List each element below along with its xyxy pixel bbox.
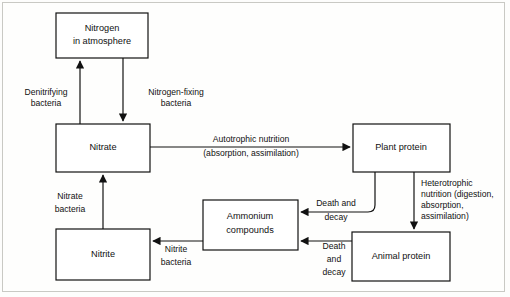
- diagram-page: Nitrogen in atmosphere Nitrate Nitrite A…: [0, 0, 510, 297]
- edge-label-denitrifying-line1: Denitrifying: [25, 87, 68, 97]
- node-ammonium-compounds[interactable]: Ammonium compounds: [203, 200, 298, 250]
- edge-label-autotrophic-line1: Autotrophic nutrition: [213, 134, 290, 144]
- node-label-nitrogen-atmosphere-line2: in atmosphere: [73, 36, 131, 46]
- node-label-nitrogen-atmosphere-line1: Nitrogen: [85, 23, 120, 33]
- edge-label-plant-death-decay-line2: decay: [325, 212, 349, 222]
- edge-label-nitrite-bacteria: Nitrite bacteria: [161, 244, 192, 267]
- edge-label-nitrogen-fixing: Nitrogen-fixing bacteria: [148, 87, 204, 108]
- edge-label-nitrogen-fixing-line2: bacteria: [161, 98, 192, 108]
- edge-label-heterotrophic-line2: nutrition (digestion,: [421, 189, 494, 199]
- edge-label-heterotrophic-line1: Heterotrophic: [421, 178, 473, 188]
- nitrogen-cycle-diagram: Nitrogen in atmosphere Nitrate Nitrite A…: [0, 0, 510, 297]
- edge-label-denitrifying-line2: bacteria: [31, 98, 62, 108]
- edge-label-autotrophic-nutrition: Autotrophic nutrition (absorption, assim…: [203, 134, 299, 158]
- node-label-plant-protein: Plant protein: [375, 142, 427, 152]
- edge-label-autotrophic-line2: (absorption, assimilation): [203, 148, 299, 158]
- edge-label-plant-death-decay: Death and decay: [316, 198, 356, 222]
- node-label-ammonium-compounds-line2: compounds: [226, 225, 274, 235]
- edge-label-animal-death-decay-line3: decay: [323, 267, 347, 277]
- edge-label-plant-death-decay-line1: Death and: [316, 198, 356, 208]
- node-plant-protein[interactable]: Plant protein: [353, 124, 450, 172]
- node-nitrite[interactable]: Nitrite: [56, 229, 150, 280]
- edge-label-animal-death-decay: Death and decay: [323, 241, 347, 277]
- edge-label-heterotrophic-line4: assimilation): [421, 211, 469, 221]
- node-label-nitrate: Nitrate: [89, 142, 116, 152]
- edge-label-animal-death-decay-line1: Death: [323, 241, 346, 251]
- edge-label-nitrate-bacteria: Nitrate bacteria: [55, 191, 86, 214]
- edge-label-nitrite-bacteria-line2: bacteria: [161, 257, 192, 267]
- node-nitrogen-atmosphere[interactable]: Nitrogen in atmosphere: [56, 13, 148, 58]
- node-nitrate[interactable]: Nitrate: [56, 124, 150, 172]
- node-label-nitrite: Nitrite: [91, 249, 115, 259]
- edge-label-heterotrophic-nutrition: Heterotrophic nutrition (digestion, abso…: [421, 178, 494, 221]
- edge-label-nitrogen-fixing-line1: Nitrogen-fixing: [148, 87, 204, 97]
- edge-label-animal-death-decay-line2: and: [327, 254, 342, 264]
- node-label-animal-protein: Animal protein: [372, 251, 431, 261]
- node-animal-protein[interactable]: Animal protein: [352, 232, 450, 281]
- edge-label-nitrite-bacteria-line1: Nitrite: [165, 244, 188, 254]
- edge-label-denitrifying: Denitrifying bacteria: [25, 87, 68, 108]
- node-label-ammonium-compounds-line1: Ammonium: [227, 211, 274, 221]
- edge-label-nitrate-bacteria-line2: bacteria: [55, 204, 86, 214]
- edge-label-heterotrophic-line3: absorption,: [421, 200, 464, 210]
- edge-label-nitrate-bacteria-line1: Nitrate: [57, 191, 83, 201]
